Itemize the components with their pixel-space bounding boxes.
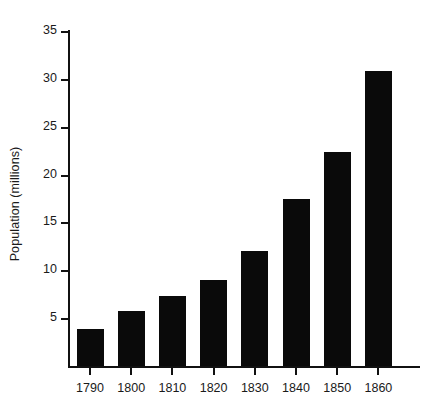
x-tick-mark	[254, 368, 256, 375]
y-axis-title: Population (millions)	[0, 0, 30, 408]
x-tick-mark	[130, 368, 132, 375]
y-tick-mark: 35	[61, 31, 68, 33]
bar	[324, 152, 351, 366]
x-tick-mark	[295, 368, 297, 375]
bar	[200, 280, 227, 366]
bar	[283, 199, 310, 366]
y-tick-label: 25	[43, 118, 57, 134]
y-tick-label: 15	[43, 213, 57, 229]
x-tick-label: 1860	[348, 380, 408, 396]
x-tick-mark	[89, 368, 91, 375]
x-tick-mark	[336, 368, 338, 375]
bar-chart: Population (millions) 5101520253035 1790…	[0, 0, 425, 408]
y-tick-label: 5	[50, 309, 57, 325]
y-tick-mark: 30	[61, 79, 68, 81]
y-tick-mark: 10	[61, 270, 68, 272]
plot-area: 5101520253035 17901800181018201830184018…	[68, 30, 420, 367]
bar	[241, 251, 268, 366]
y-tick-label: 35	[43, 22, 57, 38]
y-tick-mark: 15	[61, 222, 68, 224]
y-tick-label: 20	[43, 166, 57, 182]
bar	[77, 329, 104, 366]
x-axis-line	[68, 366, 420, 368]
x-tick-mark	[171, 368, 173, 375]
bar	[365, 71, 392, 366]
bar	[118, 311, 145, 366]
bar	[159, 296, 186, 366]
y-tick-label: 10	[43, 261, 57, 277]
x-tick-mark	[377, 368, 379, 375]
x-tick-mark	[213, 368, 215, 375]
y-axis-line	[68, 30, 70, 367]
y-tick-mark: 20	[61, 175, 68, 177]
y-tick-mark: 25	[61, 127, 68, 129]
y-tick-mark: 5	[61, 318, 68, 320]
y-tick-label: 30	[43, 70, 57, 86]
